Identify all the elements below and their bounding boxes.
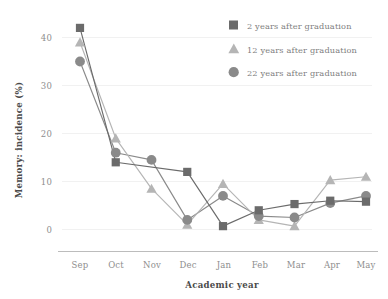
y-tick-20: 20 [41,129,52,139]
data-point-square [326,197,334,205]
y-tick-40: 40 [41,33,52,43]
legend-square-icon [229,21,238,30]
data-point-triangle [111,133,121,142]
x-axis-title: Academic year [184,280,259,290]
data-point-square [183,168,191,176]
legend-item-22-years[interactable]: 22 years after graduation [229,67,358,77]
x-tick-feb: Feb [252,260,269,270]
y-tick-30: 30 [41,81,52,91]
x-tick-may: May [356,260,375,270]
data-point-circle [75,57,85,67]
x-tick-labels: Sep Oct Nov Dec Jan Feb Mar Apr May [72,260,376,270]
legend-item-2-years[interactable]: 2 years after graduation [229,21,352,31]
data-point-circle [111,148,121,158]
x-tick-jan: Jan [216,260,232,270]
x-tick-oct: Oct [108,260,124,270]
data-point-square [290,200,298,208]
memory-incidence-line-chart: 40 30 20 10 0 Sep Oct Nov Dec Jan Feb Ma… [0,0,388,299]
legend-item-12-years[interactable]: 12 years after graduation [228,44,357,55]
legend-circle-icon [229,67,239,77]
data-point-circle [218,191,228,201]
x-tick-nov: Nov [143,260,161,270]
data-point-square [112,158,120,166]
y-axis-title: Memory: incidence (%) [14,82,24,198]
data-point-square [255,206,263,214]
x-tick-dec: Dec [179,260,196,270]
legend-label-2-years: 2 years after graduation [247,21,352,31]
legend-label-12-years: 12 years after graduation [247,45,358,55]
y-tick-10: 10 [41,177,52,187]
chart-canvas: 40 30 20 10 0 Sep Oct Nov Dec Jan Feb Ma… [0,0,388,299]
x-tick-mar: Mar [287,260,306,270]
data-point-square [219,222,227,230]
x-tick-sep: Sep [72,260,89,270]
y-tick-0: 0 [46,225,52,235]
data-point-triangle [146,184,156,193]
y-tick-labels: 40 30 20 10 0 [41,33,52,235]
data-point-circle [290,213,300,223]
legend: 2 years after graduation 12 years after … [228,21,357,78]
legend-triangle-icon [228,44,239,54]
data-point-square [76,24,84,32]
data-point-triangle [361,172,371,181]
legend-label-22-years: 22 years after graduation [247,68,358,78]
data-point-triangle [218,179,228,188]
data-point-circle [147,155,157,165]
x-tick-apr: Apr [323,260,341,270]
data-point-square [362,198,370,206]
data-point-circle [182,215,192,225]
